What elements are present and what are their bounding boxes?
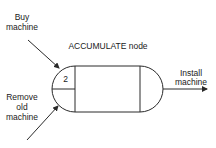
arrow-icon (28, 40, 59, 68)
accumulate-node (52, 66, 163, 112)
node-title: ACCUMULATE node (68, 41, 147, 51)
node-count-label: 2 (63, 74, 68, 84)
input-label-line: Remove (6, 92, 38, 102)
input-label-line: old (16, 102, 28, 112)
input-label-line: Buy (15, 12, 30, 22)
output-install-machine: Install machine (163, 68, 207, 89)
input-label-line: machine (6, 22, 38, 32)
input-label-line: machine (6, 112, 38, 122)
output-label-line: machine (175, 77, 207, 87)
input-remove-old-machine: Remove old machine (6, 92, 58, 140)
input-buy-machine: Buy machine (6, 12, 59, 68)
accumulate-diagram: ACCUMULATE node 2 Buy machine Remove old… (0, 0, 216, 148)
